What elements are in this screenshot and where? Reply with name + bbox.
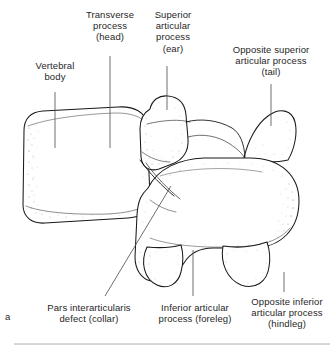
label-superior-articular-process: Superior articular process (ear) <box>140 9 206 54</box>
opposite-superior-articular-process-shape <box>244 111 296 162</box>
label-vertebral-body: Vertebral body <box>18 60 92 82</box>
opposite-inferior-articular-process-shape <box>222 242 270 286</box>
label-inferior-articular-process: Inferior articular process (foreleg) <box>146 302 244 324</box>
label-opposite-inferior-articular-process: Opposite inferior articular process (hin… <box>240 296 334 330</box>
lamina-band <box>186 120 245 157</box>
label-transverse-process: Transverse process (head) <box>70 9 150 43</box>
superior-articular-process-shape <box>140 96 188 170</box>
panel-letter: a <box>5 311 10 322</box>
label-opposite-superior-articular-process: Opposite superior articular process (tai… <box>212 44 330 78</box>
vertebral-body-shape <box>23 107 150 223</box>
label-pars-interarticularis-defect: Pars interarticularis defect (collar) <box>22 302 156 324</box>
figure-root: Vertebral body Transverse process (head)… <box>0 0 334 348</box>
